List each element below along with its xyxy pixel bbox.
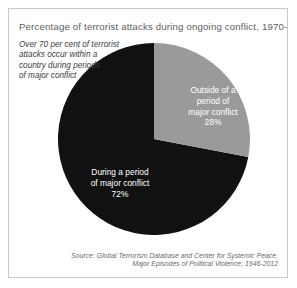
during-label-line-2: of major conflict: [65, 178, 175, 189]
outside-label-line-3: major conflict: [165, 107, 261, 118]
chart-annotation: Over 70 per cent of terrorist attacks oc…: [19, 40, 143, 82]
annotation-line-1: Over 70 per cent of terrorist: [19, 40, 143, 50]
during-label-value: 72%: [65, 189, 175, 200]
annotation-line-3: country during periods: [19, 61, 143, 71]
outside-label-line-1: Outside of a: [165, 85, 261, 96]
annotation-line-4: of major conflict: [19, 71, 143, 81]
chart-source-note: Source: Global Terrorism Database and Ce…: [58, 252, 278, 269]
source-line-1: Source: Global Terrorism Database and Ce…: [58, 252, 278, 261]
during-label-line-1: During a period: [65, 167, 175, 178]
chart-figure-frame: Percentage of terrorist attacks during o…: [8, 8, 288, 278]
outside-label-value: 28%: [165, 117, 261, 128]
source-line-2: Major Episodes of Political Violence, 19…: [58, 260, 278, 269]
outside-label-line-2: period of: [165, 96, 261, 107]
pie-label-outside-major-conflict: Outside of a period of major conflict 28…: [165, 85, 261, 128]
annotation-line-2: attacks occur within a: [19, 50, 143, 60]
pie-label-during-major-conflict: During a period of major conflict 72%: [65, 167, 175, 199]
